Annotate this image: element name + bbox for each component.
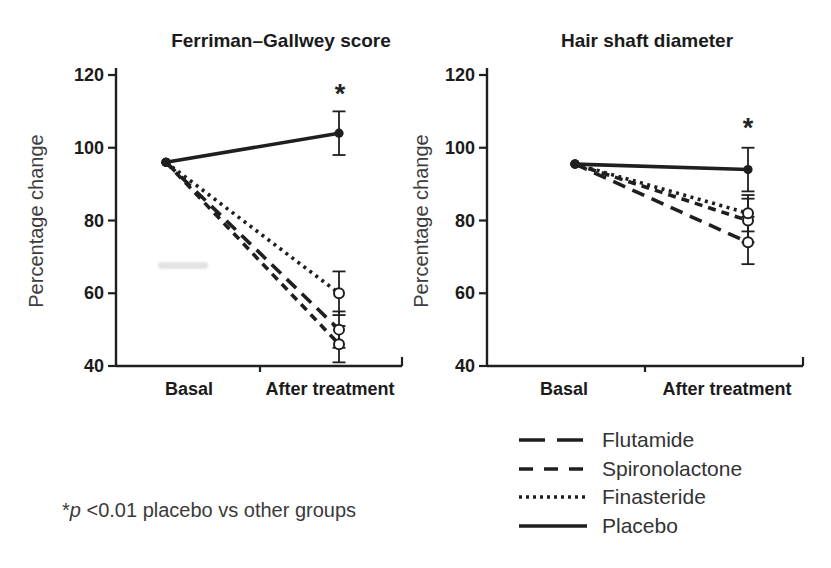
significance-asterisk-left: * [335, 79, 346, 110]
marker-after-spironolactone [334, 339, 344, 349]
marker-basal-placebo [570, 160, 579, 169]
marker-basal-placebo [161, 158, 170, 167]
y-tick-label: 80 [411, 209, 475, 233]
marker-after-flutamide [334, 325, 344, 335]
footnote-star: * [62, 499, 70, 521]
legend-line-sample-solid [519, 520, 587, 532]
series-line-spironolactone [575, 164, 748, 220]
legend-line-sample-long-dash [519, 434, 587, 446]
x-category-basal-right: Basal [540, 379, 588, 400]
legend-item-spironolactone: Spironolactone [519, 455, 742, 484]
chart-title-hair-shaft-diameter: Hair shaft diameter [561, 30, 733, 52]
series-line-flutamide [575, 164, 748, 242]
footnote-text: <0.01 placebo vs other groups [81, 499, 356, 521]
y-tick-label: 60 [411, 281, 475, 305]
legend-item-flutamide: Flutamide [519, 426, 742, 455]
marker-after-finasteride [334, 288, 344, 298]
series-line-finasteride [166, 162, 339, 293]
series-line-placebo [575, 164, 748, 169]
scan-artifact [158, 262, 208, 269]
footnote: *p <0.01 placebo vs other groups [62, 499, 356, 522]
y-tick-label: 80 [40, 209, 104, 233]
footnote-p: p [70, 499, 81, 521]
y-tick-label: 120 [40, 63, 104, 87]
y-tick-label: 100 [40, 136, 104, 160]
x-category-after-treatment-left: After treatment [265, 379, 394, 400]
y-tick-label: 60 [40, 281, 104, 305]
legend-label: Spironolactone [602, 457, 742, 481]
legend-item-placebo: Placebo [519, 512, 742, 541]
series-line-spironolactone [166, 162, 339, 344]
y-tick-label: 100 [411, 136, 475, 160]
legend: FlutamideSpironolactoneFinasteridePlaceb… [519, 426, 742, 540]
marker-after-flutamide [743, 237, 753, 247]
chart-title-ferriman-gallwey: Ferriman–Gallwey score [171, 30, 391, 52]
legend-label: Flutamide [602, 428, 694, 452]
legend-item-finasteride: Finasteride [519, 483, 742, 512]
y-tick-label: 120 [411, 63, 475, 87]
significance-asterisk-right: * [743, 113, 754, 144]
x-category-basal-left: Basal [165, 379, 213, 400]
marker-after-finasteride [743, 208, 753, 218]
series-line-flutamide [166, 162, 339, 329]
legend-label: Finasteride [602, 485, 706, 509]
figure-canvas: Ferriman–Gallwey score Percentage change… [0, 0, 831, 568]
marker-after-placebo [743, 165, 752, 174]
marker-after-placebo [334, 129, 343, 138]
series-line-placebo [166, 133, 339, 162]
legend-line-sample-short-dash [519, 463, 587, 475]
y-tick-label: 40 [411, 354, 475, 378]
legend-line-sample-dotted [519, 491, 587, 503]
y-tick-label: 40 [40, 354, 104, 378]
series-line-finasteride [575, 164, 748, 213]
legend-label: Placebo [602, 514, 678, 538]
x-category-after-treatment-right: After treatment [662, 379, 791, 400]
